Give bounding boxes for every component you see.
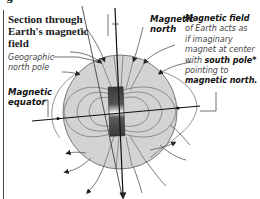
note-south-pole: south pole*: [205, 56, 257, 65]
imaginary-magnet: [108, 87, 125, 136]
label-geographic-north-pole: Geographic north pole: [8, 53, 54, 73]
label-line: equator: [8, 97, 52, 107]
label-line: Geographic: [8, 53, 54, 63]
title-line-1: Section through: [8, 13, 88, 25]
magnetic-field-note: Magnetic field of Earth acts as if imagi…: [185, 14, 260, 87]
label-line: north pole: [8, 63, 54, 73]
note-period: .: [254, 76, 257, 85]
title-line-3: field: [8, 37, 88, 49]
diagram-title: Section through Earth's magnetic field: [8, 13, 88, 49]
note-magnetic-north: magnetic north: [185, 76, 254, 85]
title-line-2: Earth's magnetic: [8, 25, 88, 37]
note-line: if imaginary: [185, 35, 260, 45]
label-magnetic-equator: Magnetic equator: [8, 87, 52, 107]
note-line: pointing to: [185, 66, 260, 76]
note-line: magnet at center: [185, 45, 260, 55]
note-line-prefix: with: [185, 56, 205, 65]
note-heading: Magnetic field: [185, 14, 250, 23]
note-line: of Earth acts as: [185, 24, 260, 34]
label-line: Magnetic: [8, 87, 52, 97]
